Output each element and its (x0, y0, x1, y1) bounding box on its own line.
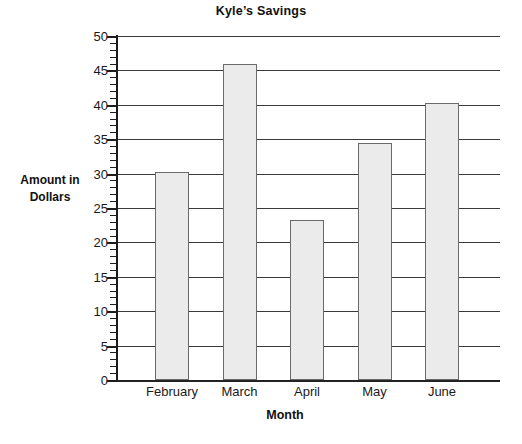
y-tick-minor-39 (110, 112, 118, 113)
y-tick-minor-24 (110, 215, 118, 216)
y-tick-major-30 (107, 174, 118, 176)
y-tick-minor-44 (110, 77, 118, 78)
y-tick-minor-32 (110, 160, 118, 161)
y-tick-minor-43 (110, 84, 118, 85)
y-tick-label-50: 50 (74, 29, 108, 44)
y-tick-major-5 (107, 346, 118, 348)
y-tick-label-0: 0 (74, 373, 108, 388)
y-tick-minor-33 (110, 153, 118, 154)
x-axis-tick-labels: FebruaryMarchAprilMayJune (118, 384, 500, 404)
y-tick-label-20: 20 (74, 235, 108, 250)
y-tick-minor-29 (110, 180, 118, 181)
bar-may (358, 143, 392, 380)
chart-screenshot: Kyle’s Savings Amount in Dollars 0510152… (0, 0, 522, 444)
y-tick-major-40 (107, 105, 118, 107)
y-tick-minor-26 (110, 201, 118, 202)
y-tick-minor-2 (110, 366, 118, 367)
y-tick-minor-11 (110, 304, 118, 305)
y-tick-minor-37 (110, 125, 118, 126)
y-tick-label-40: 40 (74, 97, 108, 112)
chart-title: Kyle’s Savings (0, 4, 522, 18)
y-tick-minor-48 (110, 50, 118, 51)
y-tick-minor-47 (110, 57, 118, 58)
y-tick-minor-41 (110, 98, 118, 99)
y-tick-label-35: 35 (74, 132, 108, 147)
y-tick-minor-49 (110, 43, 118, 44)
y-tick-minor-8 (110, 325, 118, 326)
y-tick-minor-22 (110, 229, 118, 230)
y-tick-label-15: 15 (74, 269, 108, 284)
y-tick-major-15 (107, 277, 118, 279)
gridline-50 (118, 36, 500, 37)
y-tick-minor-3 (110, 359, 118, 360)
y-tick-label-10: 10 (74, 304, 108, 319)
y-tick-label-5: 5 (74, 338, 108, 353)
y-tick-label-30: 30 (74, 166, 108, 181)
y-tick-minor-14 (110, 284, 118, 285)
y-axis-tick-labels: 05101520253035404550 (70, 36, 108, 380)
bar-june (425, 103, 459, 380)
y-tick-label-25: 25 (74, 201, 108, 216)
y-tick-minor-23 (110, 222, 118, 223)
y-tick-minor-34 (110, 146, 118, 147)
y-tick-minor-27 (110, 194, 118, 195)
y-tick-minor-28 (110, 187, 118, 188)
y-tick-minor-42 (110, 91, 118, 92)
y-tick-major-25 (107, 208, 118, 210)
y-tick-minor-13 (110, 291, 118, 292)
x-axis-title: Month (118, 408, 452, 422)
bar-april (290, 220, 324, 380)
y-tick-minor-38 (110, 119, 118, 120)
y-tick-major-45 (107, 70, 118, 72)
y-tick-major-10 (107, 311, 118, 313)
y-tick-minor-16 (110, 270, 118, 271)
y-tick-label-45: 45 (74, 63, 108, 78)
y-tick-minor-7 (110, 332, 118, 333)
y-tick-minor-9 (110, 318, 118, 319)
y-tick-major-35 (107, 139, 118, 141)
y-tick-minor-17 (110, 263, 118, 264)
bar-february (155, 172, 189, 380)
y-tick-minor-36 (110, 132, 118, 133)
y-tick-major-50 (107, 36, 118, 38)
gridline-45 (118, 70, 500, 71)
gridline-0 (118, 380, 500, 382)
y-tick-major-0 (107, 380, 118, 382)
y-tick-minor-46 (110, 64, 118, 65)
x-tick-label-june: June (397, 384, 487, 399)
y-tick-minor-4 (110, 352, 118, 353)
y-tick-minor-31 (110, 167, 118, 168)
y-tick-minor-12 (110, 297, 118, 298)
bar-march (223, 64, 257, 380)
y-tick-minor-6 (110, 339, 118, 340)
y-tick-minor-21 (110, 236, 118, 237)
y-tick-major-20 (107, 242, 118, 244)
y-tick-minor-18 (110, 256, 118, 257)
plot-area (118, 36, 500, 380)
y-tick-minor-19 (110, 249, 118, 250)
y-tick-minor-1 (110, 373, 118, 374)
